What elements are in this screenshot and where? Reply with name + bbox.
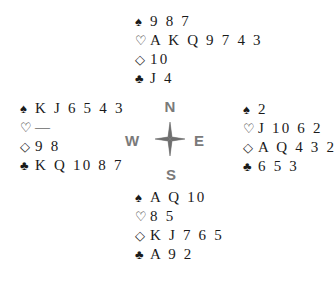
west-hearts-row: ♡— <box>20 118 52 137</box>
club-icon: ♣ <box>243 157 257 176</box>
compass-star-icon <box>155 122 185 156</box>
south-hearts-row: ♡8 5 <box>135 207 175 226</box>
heart-icon: ♡ <box>243 119 257 138</box>
north-clubs: J 4 <box>150 70 174 86</box>
east-diamonds-row: ◇A Q 4 3 2 <box>243 138 336 157</box>
diamond-icon: ◇ <box>20 137 34 156</box>
east-spades: 2 <box>258 101 268 117</box>
west-spades-row: ♠K J 6 5 4 3 <box>20 99 125 118</box>
club-icon: ♣ <box>135 69 149 88</box>
south-hearts: 8 5 <box>150 208 175 224</box>
north-diamonds: 10 <box>150 51 169 67</box>
west-hearts: — <box>35 119 52 135</box>
east-spades-row: ♠2 <box>243 100 268 119</box>
north-clubs-row: ♣J 4 <box>135 69 174 88</box>
south-spades: A Q 10 <box>150 189 207 205</box>
compass-north-label: N <box>165 99 176 114</box>
south-clubs-row: ♣A 9 2 <box>135 245 194 264</box>
west-spades: K J 6 5 4 3 <box>35 100 125 116</box>
heart-icon: ♡ <box>20 118 34 137</box>
diamond-icon: ◇ <box>135 226 149 245</box>
heart-icon: ♡ <box>135 31 149 50</box>
east-clubs: 6 5 3 <box>258 158 299 174</box>
west-diamonds-row: ◇9 8 <box>20 137 60 156</box>
north-diamonds-row: ◇10 <box>135 50 169 69</box>
east-clubs-row: ♣6 5 3 <box>243 157 299 176</box>
north-hearts: A K Q 9 7 4 3 <box>150 32 263 48</box>
south-spades-row: ♠A Q 10 <box>135 188 207 207</box>
east-hearts-row: ♡J 10 6 2 <box>243 119 323 138</box>
spade-icon: ♠ <box>135 12 149 31</box>
club-icon: ♣ <box>20 156 34 175</box>
west-clubs: K Q 10 8 7 <box>35 157 124 173</box>
compass-east-label: E <box>194 133 204 148</box>
compass-south-label: S <box>166 167 176 182</box>
east-hearts: J 10 6 2 <box>258 120 323 136</box>
heart-icon: ♡ <box>135 207 149 226</box>
east-diamonds: A Q 4 3 2 <box>258 139 336 155</box>
south-diamonds: K J 7 6 5 <box>150 227 224 243</box>
west-diamonds: 9 8 <box>35 138 60 154</box>
compass-west-label: W <box>125 133 139 148</box>
north-spades: 9 8 7 <box>150 13 191 29</box>
diamond-icon: ◇ <box>135 50 149 69</box>
diamond-icon: ◇ <box>243 138 257 157</box>
club-icon: ♣ <box>135 245 149 264</box>
spade-icon: ♠ <box>135 188 149 207</box>
north-hearts-row: ♡A K Q 9 7 4 3 <box>135 31 263 50</box>
south-clubs: A 9 2 <box>150 246 194 262</box>
west-clubs-row: ♣K Q 10 8 7 <box>20 156 124 175</box>
north-spades-row: ♠9 8 7 <box>135 12 191 31</box>
spade-icon: ♠ <box>243 100 257 119</box>
south-diamonds-row: ◇K J 7 6 5 <box>135 226 224 245</box>
spade-icon: ♠ <box>20 99 34 118</box>
